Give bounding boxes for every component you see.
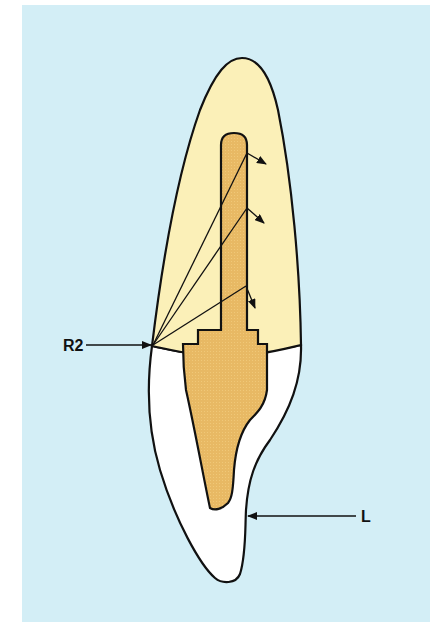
- r2-label: R2: [63, 337, 84, 354]
- l-annotation: L: [248, 508, 371, 525]
- tooth-diagram: R2 L: [0, 0, 437, 627]
- r2-annotation: R2: [63, 337, 151, 354]
- l-label: L: [361, 508, 371, 525]
